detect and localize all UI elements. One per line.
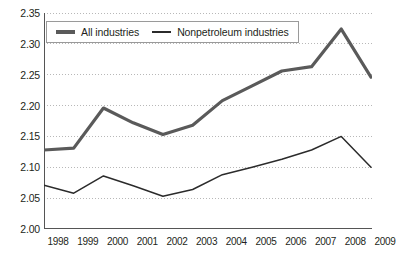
series-line-all-industries [44, 29, 371, 150]
x-axis-tick-labels: 1998199920002001200220032004200520062007… [0, 236, 394, 254]
y-tick-label: 2.20 [2, 101, 40, 111]
data-series [44, 13, 372, 229]
legend-swatch-line-icon [56, 30, 75, 34]
x-tick-label: 2009 [368, 236, 400, 248]
plot-area [44, 13, 372, 229]
chart-legend: All industries Nonpetroleum industries [46, 21, 299, 43]
y-tick-label: 2.10 [2, 162, 40, 172]
legend-label: All industries [81, 27, 139, 38]
legend-swatch-line-icon [152, 31, 171, 33]
y-tick-label: 2.15 [2, 131, 40, 141]
legend-label: Nonpetroleum industries [177, 27, 289, 38]
legend-item-nonpetroleum-industries: Nonpetroleum industries [152, 27, 289, 38]
y-tick-label: 2.25 [2, 70, 40, 80]
series-line-nonpetroleum-industries [44, 136, 371, 196]
y-tick-label: 2.30 [2, 39, 40, 49]
y-tick-label: 2.05 [2, 193, 40, 203]
legend-item-all-industries: All industries [56, 27, 139, 38]
y-tick-label: 2.35 [2, 8, 40, 18]
y-tick-label: 2.00 [2, 224, 40, 234]
